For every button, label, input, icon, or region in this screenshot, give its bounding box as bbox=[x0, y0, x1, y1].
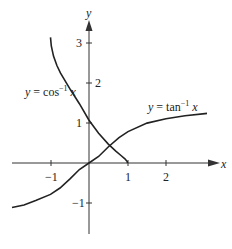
arctan-curve bbox=[12, 113, 207, 207]
y-axis-label: y bbox=[85, 6, 92, 20]
y-tick-label: 3 bbox=[76, 36, 82, 50]
x-axis-arrow-icon bbox=[208, 160, 220, 167]
x-tick-label: −1 bbox=[45, 170, 58, 184]
y-tick-label: 1 bbox=[76, 116, 82, 130]
arctan-label: y = tan−1 x bbox=[147, 99, 198, 114]
y-axis-arrow-icon bbox=[86, 20, 93, 31]
x-tick-label: 2 bbox=[163, 170, 169, 184]
arccos-label: y = cos−1 x bbox=[24, 84, 77, 99]
x-axis-label: x bbox=[220, 157, 227, 171]
chart-canvas: x y −1 1 2 3 2 1 −1 y = cos−1 x y = tan−… bbox=[0, 0, 232, 249]
y-tick-label: −1 bbox=[72, 196, 85, 210]
y-tick-label: 2 bbox=[95, 76, 101, 90]
x-tick-label: 1 bbox=[125, 170, 131, 184]
